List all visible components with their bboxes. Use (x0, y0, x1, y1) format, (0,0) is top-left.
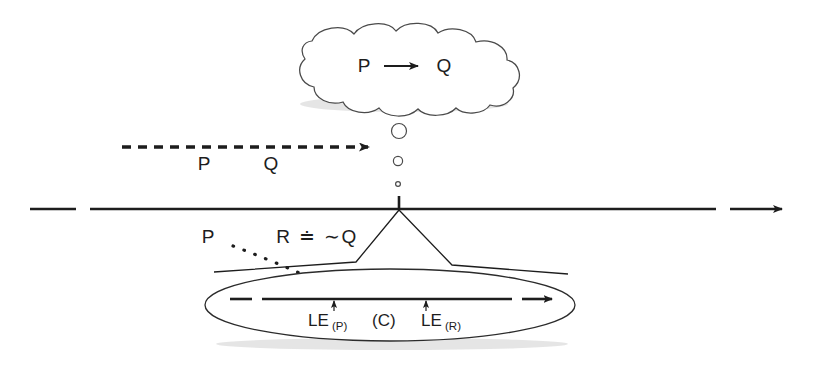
below-line-label-negation: ∼ (324, 226, 340, 247)
thought-bubble-trail (392, 124, 407, 210)
bubble-large (392, 124, 407, 139)
below-line-label-relation: ≐ (299, 226, 315, 247)
cone-right-leg (399, 210, 568, 274)
label-c: (C) (372, 311, 396, 330)
bubble-small (396, 182, 401, 187)
thought-cloud-group: P Q (300, 23, 520, 116)
cloud-consequent-label: Q (437, 55, 452, 76)
cloud-outline (300, 23, 520, 116)
below-line-label-conclusion: Q (342, 226, 357, 247)
diagram-root: P Q (0, 0, 813, 369)
bubble-medium (393, 156, 402, 165)
label-le-r: LE (421, 311, 442, 330)
below-line-label-premise: P (202, 226, 215, 247)
label-le-r-subscript: (R) (445, 320, 461, 332)
dashed-arrow-label-p: P (198, 153, 211, 174)
zoom-ellipse-outline (205, 269, 575, 341)
dashed-arrow-label-q: Q (264, 153, 279, 174)
diagram-canvas: P Q (0, 0, 813, 369)
below-line-label-rule: R (276, 226, 290, 247)
zoom-ellipse-group: LE (P) (C) LE (R) (205, 269, 575, 350)
cloud-antecedent-label: P (358, 55, 371, 76)
zoom-cone (214, 210, 568, 274)
label-le-p-subscript: (P) (332, 320, 348, 332)
label-le-p: LE (308, 311, 329, 330)
